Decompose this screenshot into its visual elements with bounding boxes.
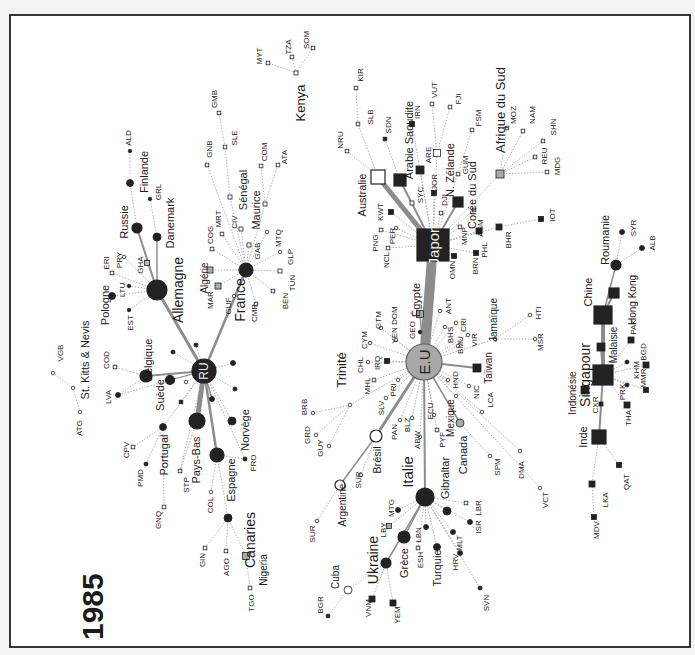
node-label-lby: LBY <box>379 522 388 538</box>
node-label-cmr: CMR <box>250 304 259 322</box>
node-gum <box>456 172 460 176</box>
node-nor <box>228 417 236 425</box>
node-are <box>416 166 424 174</box>
node-label-msr: MSR <box>536 333 545 351</box>
node-ru_c <box>231 361 236 366</box>
node-label-ita: Italie <box>399 456 416 488</box>
node-label-lbr: LBR <box>474 500 483 516</box>
node-label-prt: Portugal <box>158 435 170 476</box>
node-label-fin: Finlande <box>138 151 150 193</box>
node-label-pan: PAN <box>390 424 399 440</box>
node-label-jor: JOR <box>430 174 439 190</box>
node-jor <box>432 191 437 196</box>
node-label-omn: OMN <box>448 260 457 279</box>
node-hnd <box>446 378 450 382</box>
node-myt <box>266 61 270 65</box>
node-label-rus: Russie <box>118 205 130 239</box>
node-label-swe: Suède <box>154 379 166 411</box>
node-label-mrt: MRT <box>214 210 223 227</box>
node-label-fsm: FSM <box>474 109 483 126</box>
node-ru_f <box>184 380 188 384</box>
node-gha <box>145 261 150 266</box>
node-eri <box>110 271 114 275</box>
node-label-sdn: SDN <box>384 116 393 133</box>
node-label-gab: GAB <box>253 243 262 260</box>
node-label-pri: PRI <box>389 383 398 396</box>
node-label-mlt: MLT <box>455 535 464 551</box>
node-label-col: COL <box>206 496 215 513</box>
node-label-guf: GUF <box>224 297 233 314</box>
node-label-asm: ASM <box>476 219 485 237</box>
node-label-fro: FRO <box>249 455 258 472</box>
node-ncl <box>386 246 390 250</box>
node-label-ant: ANT <box>444 298 453 314</box>
node-reu <box>533 155 537 159</box>
node-label-mex: Mexique <box>445 399 456 437</box>
node-esp <box>210 448 224 462</box>
node-label-pak: PAK <box>629 319 638 335</box>
node-civ <box>239 227 243 231</box>
node-label-hti: HTI <box>534 307 543 320</box>
network-graph-canvas: RUE.UJaponSingapourChineHong KongRoumani… <box>0 0 695 655</box>
node-grl <box>148 197 152 201</box>
node-label-pyf: PYF <box>438 432 447 448</box>
node-label-esh: ESH <box>416 552 425 569</box>
node-gib <box>443 507 451 515</box>
node-sdn <box>383 137 387 141</box>
node-kna <box>71 386 75 390</box>
node-label-vgb: VGB <box>56 345 65 362</box>
node-png <box>379 228 383 232</box>
node-label-ru: RU <box>197 362 211 379</box>
node-label-slv: SLV <box>377 400 386 415</box>
node-lva <box>116 393 121 398</box>
node-spm <box>488 454 492 458</box>
node-label-abw: ABW <box>413 430 422 449</box>
node-label-sle: SLE <box>230 130 239 145</box>
node-label-vct: VCT <box>541 492 550 508</box>
node-label-vnm: VNM <box>364 599 373 617</box>
node-label-mar: MAR <box>206 291 215 309</box>
node-slv <box>384 396 388 400</box>
node-mhl <box>372 378 376 382</box>
node-label-glp: GLP <box>286 249 295 265</box>
node-label-grd: GRD <box>303 426 312 444</box>
node-label-blz: BLZ <box>403 418 412 433</box>
node-label-irq: IRQ <box>373 356 382 370</box>
node-isr <box>468 520 473 525</box>
node-geo <box>418 330 422 334</box>
node-label-dnk: Danemark <box>164 197 176 248</box>
node-label-cpv: CPV <box>122 441 131 458</box>
node-label-gib: Gibraltar <box>439 457 451 500</box>
node-label-bhr: BHR <box>504 231 513 248</box>
node-kir <box>354 86 358 90</box>
node-nzl <box>434 150 441 157</box>
node-mex <box>454 394 458 398</box>
node-label-mhl: MHL <box>363 377 372 394</box>
node-prt <box>160 424 167 431</box>
node-label-gmb: GMB <box>210 90 219 108</box>
node-bgr <box>326 614 330 618</box>
node-ind <box>592 430 606 444</box>
node-chl <box>366 360 370 364</box>
node-pak <box>628 337 634 343</box>
node-label-zaf: Afrique du Sud <box>493 67 508 153</box>
node-hti <box>528 313 532 317</box>
node-grd <box>314 433 318 437</box>
node-yem <box>390 600 396 606</box>
node-som <box>311 46 315 50</box>
node-mar <box>215 283 221 289</box>
node-label-hkg: Hong Kong <box>627 275 638 325</box>
node-label-som: SOM <box>302 31 311 50</box>
node-label-bgr: BGR <box>316 596 325 614</box>
node-gmb <box>217 111 221 115</box>
node-label-nga: Nigeria <box>258 554 269 586</box>
node-twn <box>473 364 481 372</box>
node-label-egy: Égypte <box>410 283 422 317</box>
node-label-dma: DMA <box>517 460 526 478</box>
node-label-stp: STP <box>182 477 191 493</box>
node-lca <box>480 410 484 414</box>
node-label-lbn: LBN <box>414 527 423 543</box>
node-cym <box>368 341 372 345</box>
node-rou <box>611 260 621 270</box>
node-label-mtq: MTQ <box>274 229 283 247</box>
